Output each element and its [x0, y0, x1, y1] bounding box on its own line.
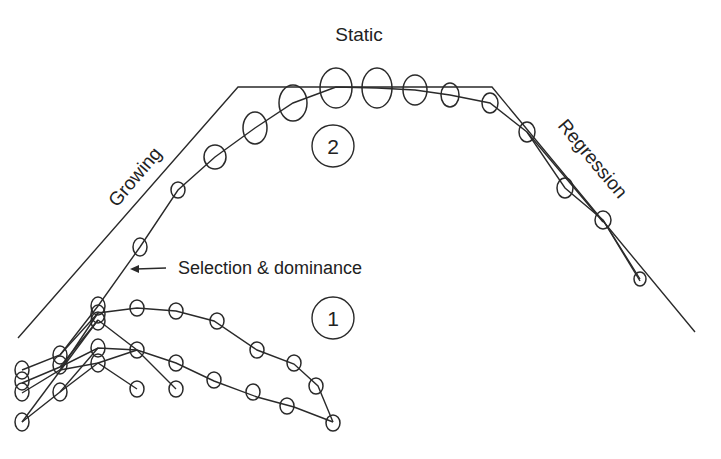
zone-badge-1: 1 — [312, 297, 354, 339]
lifecycle-diagram: 2 1 Static Growing Regression Selection … — [0, 0, 721, 459]
main-chain-tail-line — [603, 220, 640, 281]
static-label: Static — [335, 24, 383, 45]
main-chain-nodes — [133, 68, 646, 286]
arrow-icon — [130, 265, 166, 273]
zone-badge-1-label: 1 — [327, 307, 339, 330]
growing-label: Growing — [104, 143, 166, 211]
selection-dominance-label: Selection & dominance — [178, 258, 362, 278]
zone-badge-2-label: 2 — [327, 135, 339, 158]
zone-badge-2: 2 — [312, 125, 354, 167]
cluster-nodes — [15, 297, 340, 431]
